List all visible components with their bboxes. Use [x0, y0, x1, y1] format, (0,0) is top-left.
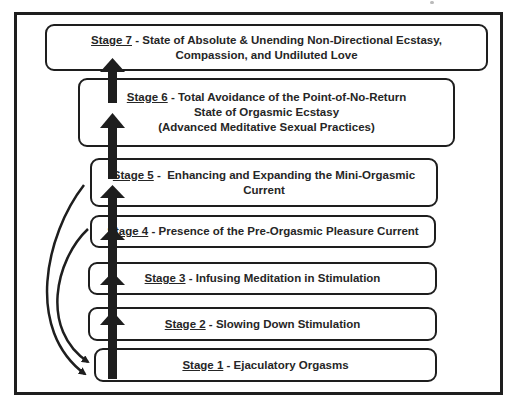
separator: -	[223, 359, 233, 371]
separator: -	[132, 34, 142, 46]
stage-3-text: Infusing Meditation in Stimulation	[196, 272, 381, 284]
separator: -	[168, 91, 178, 103]
stage-5-label: Stage 5	[113, 169, 154, 181]
stage-5-text-line-1: Enhancing and Expanding the Mini-Orgasmi…	[167, 169, 415, 181]
stage-7-label: Stage 7	[91, 34, 132, 46]
stage-1-box: Stage 1 - Ejaculatory Orgasms	[94, 348, 437, 382]
separator: -	[154, 169, 167, 181]
stage-4-label: Stage 4	[107, 225, 148, 237]
stage-5-text-line-2: Current	[113, 183, 415, 198]
stage-4-box: Stage 4 - Presence of the Pre-Orgasmic P…	[90, 215, 436, 248]
stage-1-text: Ejaculatory Orgasms	[234, 359, 349, 371]
stage-5-box: Stage 5 - Enhancing and Expanding the Mi…	[90, 158, 438, 207]
stage-7-text-line-2: Compassion, and Undiluted Love	[91, 48, 442, 63]
stage-6-label: Stage 6	[127, 91, 168, 103]
stage-3-box: Stage 3 - Infusing Meditation in Stimula…	[88, 262, 437, 295]
stage-6-text-line-2: State of Orgasmic Ecstasy	[127, 105, 406, 120]
stage-4-text: Presence of the Pre-Orgasmic Pleasure Cu…	[159, 225, 419, 237]
stage-2-box: Stage 2 - Slowing Down Stimulation	[88, 307, 437, 341]
stage-3-label: Stage 3	[145, 272, 186, 284]
stage-2-text: Slowing Down Stimulation	[216, 318, 360, 330]
separator: -	[148, 225, 158, 237]
separator: -	[186, 272, 196, 284]
scan-artifact	[430, 1, 434, 4]
stage-6-text-line-1: Total Avoidance of the Point-of-No-Retur…	[178, 91, 406, 103]
stage-6-box: Stage 6 - Total Avoidance of the Point-o…	[78, 78, 455, 147]
stage-6-text-line-3: (Advanced Meditative Sexual Practices)	[127, 120, 406, 135]
stage-7-box: Stage 7 - State of Absolute & Unending N…	[45, 24, 488, 71]
stage-7-text-line-1: State of Absolute & Unending Non-Directi…	[142, 34, 442, 46]
separator: -	[206, 318, 216, 330]
stage-1-label: Stage 1	[182, 359, 223, 371]
stage-2-label: Stage 2	[165, 318, 206, 330]
